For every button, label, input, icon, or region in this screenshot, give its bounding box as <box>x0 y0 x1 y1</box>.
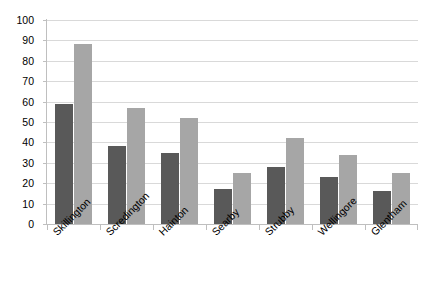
y-axis-tick-mark <box>43 20 47 21</box>
y-axis-tick-label: 10 <box>0 198 34 209</box>
y-axis-tick-label: 70 <box>0 76 34 87</box>
y-axis-tick-label: 50 <box>0 117 34 128</box>
plot-area <box>47 20 418 224</box>
y-axis-tick-mark <box>43 142 47 143</box>
y-axis-tick-mark <box>43 204 47 205</box>
bar-group <box>47 20 100 224</box>
y-axis-tick-label: 30 <box>0 158 34 169</box>
bar-group <box>312 20 365 224</box>
bar-group <box>206 20 259 224</box>
y-axis-tick-mark <box>43 61 47 62</box>
x-axis-category-labels: SkillingtonScredingtonHaintonSearbyStrub… <box>47 230 431 296</box>
y-axis-tick-label: 90 <box>0 35 34 46</box>
y-axis-tick-label: 100 <box>0 15 34 26</box>
y-axis-tick-mark <box>43 163 47 164</box>
bar-group <box>153 20 206 224</box>
y-axis-tick-mark <box>43 183 47 184</box>
y-axis-tick-mark <box>43 81 47 82</box>
y-axis-tick-labels: 1009080706050403020100 <box>0 0 44 296</box>
y-axis-tick-mark <box>43 40 47 41</box>
y-axis-tick-label: 40 <box>0 137 34 148</box>
bar-group <box>365 20 418 224</box>
bar-group <box>259 20 312 224</box>
y-axis-tick-label: 60 <box>0 96 34 107</box>
y-axis-tick-mark <box>43 122 47 123</box>
y-axis-tick-mark <box>43 102 47 103</box>
y-axis-tick-label: 80 <box>0 56 34 67</box>
y-axis-tick-label: 0 <box>0 219 34 230</box>
bar-chart: 1009080706050403020100 SkillingtonScredi… <box>0 0 431 296</box>
y-axis-tick-label: 20 <box>0 178 34 189</box>
bar[interactable] <box>55 104 73 224</box>
bars-layer <box>47 20 418 224</box>
